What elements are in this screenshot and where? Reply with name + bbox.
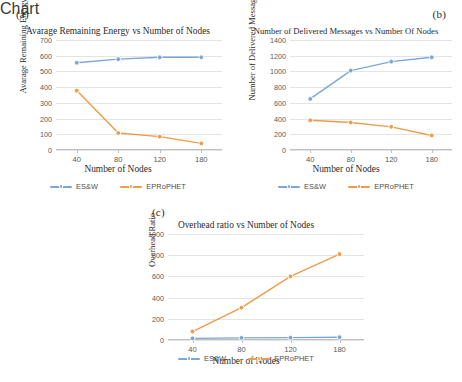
x-axis-tick-label: 40 (188, 345, 196, 354)
y-axis-tick-label: 0 (282, 146, 286, 155)
data-point-marker (239, 305, 244, 310)
x-axis-tick-label: 120 (284, 345, 297, 354)
panel-b-y-axis-label: Number of Delivered Messages (246, 0, 258, 102)
y-axis-tick-label: 600 (274, 98, 286, 107)
panel-a: (a) Avarage Remaining Energy vs Number o… (4, 6, 232, 202)
legend-item-eprophet: EPRoPHET (248, 354, 314, 363)
data-point-marker (337, 252, 342, 257)
y-axis-tick-label: 0 (48, 146, 52, 155)
y-axis-tick-label: 0 (160, 336, 164, 345)
x-axis-tick-label: 180 (195, 155, 208, 164)
x-axis-tick-label: 80 (347, 155, 355, 164)
data-point-marker (337, 335, 342, 340)
panel-b-label: (b) (433, 8, 446, 20)
series-layer (168, 234, 364, 340)
legend-label-eprophet: EPRoPHET (274, 354, 314, 363)
gridline (290, 150, 452, 151)
y-axis-tick-label: 1200 (270, 51, 286, 60)
legend-item-eprophet: EPRoPHET (348, 182, 414, 191)
legend-item-esw: ES&W (50, 182, 98, 191)
y-axis-tick-label: 1400 (270, 36, 286, 45)
legend-label-esw: ES&W (304, 182, 326, 191)
y-axis-tick-label: 400 (40, 83, 52, 92)
y-axis-tick-label: 600 (152, 272, 164, 281)
legend-label-eprophet: EPRoPHET (374, 182, 414, 191)
data-point-marker (190, 336, 195, 341)
panel-b: (b) Number of Delivered Messages vs Numb… (232, 6, 460, 202)
data-point-marker (116, 57, 121, 62)
series-line-es-w (310, 57, 432, 99)
legend-item-esw: ES&W (178, 354, 226, 363)
data-point-marker (190, 329, 195, 334)
x-axis-tick-mark (432, 150, 433, 153)
panel-b-plot-area: 02004006008001000120014004080120180 (290, 40, 452, 150)
data-point-marker (239, 335, 244, 340)
data-point-marker (74, 88, 79, 93)
y-axis-tick-label: 800 (274, 83, 286, 92)
y-axis-tick-label: 600 (40, 51, 52, 60)
panel-b-x-axis-label: Number of Nodes (232, 164, 460, 174)
data-point-marker (348, 68, 353, 73)
panel-a-legend: ES&W EPRoPHET (4, 182, 232, 191)
data-point-marker (389, 124, 394, 129)
legend-item-esw: ES&W (278, 182, 326, 191)
series-line-eprophet (77, 91, 202, 144)
series-line-eprophet (193, 254, 340, 331)
y-axis-tick-label: 800 (152, 251, 164, 260)
legend-label-esw: ES&W (76, 182, 98, 191)
x-axis-tick-mark (310, 150, 311, 153)
data-point-marker (74, 60, 79, 65)
y-axis-tick-label: 500 (40, 67, 52, 76)
x-axis-tick-mark (201, 150, 202, 153)
legend-swatch-esw (50, 186, 72, 188)
x-axis-tick-mark (351, 150, 352, 153)
x-axis-tick-mark (340, 340, 341, 343)
y-axis-tick-label: 1000 (270, 67, 286, 76)
series-layer (290, 40, 452, 150)
y-axis-tick-label: 400 (152, 293, 164, 302)
panel-c-legend: ES&W EPRoPHET (110, 354, 382, 363)
x-axis-tick-mark (391, 150, 392, 153)
series-line-eprophet (310, 120, 432, 135)
panel-a-x-axis-label: Number of Nodes (4, 164, 232, 174)
legend-swatch-esw (178, 358, 200, 360)
x-axis-tick-label: 120 (385, 155, 398, 164)
data-point-marker (288, 274, 293, 279)
panel-c: (c) Overhead ratio vs Number of Nodes Ov… (110, 204, 382, 380)
x-axis-tick-label: 80 (237, 345, 245, 354)
x-axis-tick-mark (160, 150, 161, 153)
x-axis-tick-mark (118, 150, 119, 153)
panel-a-y-axis-label: Avarage Remaining Energy (17, 0, 29, 101)
panel-a-title: Avarage Remaining Energy vs Number of No… (4, 26, 232, 36)
data-point-marker (157, 134, 162, 139)
x-axis-tick-label: 180 (333, 345, 346, 354)
y-axis-tick-label: 700 (40, 36, 52, 45)
x-axis-tick-label: 40 (73, 155, 81, 164)
legend-swatch-eprophet (348, 186, 370, 188)
y-axis-tick-label: 1000 (148, 230, 164, 239)
series-line-es-w (77, 57, 202, 63)
y-axis-tick-label: 400 (274, 114, 286, 123)
data-point-marker (429, 55, 434, 60)
x-axis-tick-label: 180 (425, 155, 438, 164)
data-point-marker (288, 335, 293, 340)
y-axis-tick-label: 300 (40, 98, 52, 107)
panel-c-plot-area: 020040060080010004080120180 (168, 234, 364, 340)
y-axis-tick-label: 200 (40, 114, 52, 123)
data-point-marker (199, 141, 204, 146)
data-point-marker (308, 97, 313, 102)
legend-swatch-eprophet (120, 186, 142, 188)
x-axis-tick-mark (77, 150, 78, 153)
legend-swatch-esw (278, 186, 300, 188)
data-point-marker (348, 120, 353, 125)
data-point-marker (389, 59, 394, 64)
y-axis-tick-label: 100 (40, 130, 52, 139)
data-point-marker (429, 133, 434, 138)
panel-a-plot-area: 01002003004005006007004080120180 (56, 40, 222, 150)
panel-b-title: Number of Delivered Messages vs Number O… (232, 26, 460, 36)
gridline (56, 150, 222, 151)
series-line-es-w (193, 337, 340, 338)
x-axis-tick-label: 120 (153, 155, 166, 164)
data-point-marker (308, 118, 313, 123)
y-axis-tick-label: 200 (274, 130, 286, 139)
